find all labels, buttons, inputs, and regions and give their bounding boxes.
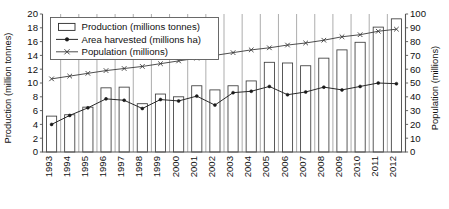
dual-axis-bar-line-chart: 02468101214161820 0102030405060708090100…	[0, 0, 449, 209]
area-harvested-marker	[395, 82, 398, 85]
production-bar	[119, 87, 129, 152]
y2-axis-title: Population (millions)	[429, 46, 440, 130]
production-bar	[355, 42, 365, 152]
y-axis-tick-label: 0	[33, 146, 38, 157]
area-harvested-marker	[340, 88, 343, 91]
area-harvested-marker	[141, 107, 144, 110]
legend-item-label: Area harvested (millions ha)	[82, 34, 201, 45]
y2-axis-tick-label: 90	[410, 22, 421, 33]
production-bar	[210, 90, 220, 152]
area-harvested-marker	[105, 97, 108, 100]
production-bar	[319, 58, 329, 152]
legend-dot-marker-icon	[65, 38, 69, 42]
y-axis-tick-label: 12	[27, 64, 38, 75]
legend-swatch-production-icon	[59, 23, 76, 30]
area-harvested-marker	[68, 114, 71, 117]
y2-axis-tick-label: 30	[410, 105, 421, 116]
y-axis-title: Production (million tonnes)	[2, 33, 13, 144]
x-axis-tick-label: 2008	[315, 156, 326, 177]
production-bar	[137, 104, 147, 152]
y-axis-tick-label: 4	[33, 119, 39, 130]
area-harvested-marker	[86, 106, 89, 109]
area-harvested-marker	[213, 104, 216, 107]
area-harvested-marker	[304, 90, 307, 93]
y2-axis-tick-label: 10	[410, 133, 421, 144]
x-axis-tick-label: 1998	[133, 156, 144, 177]
legend-item-label: Population (millions)	[82, 46, 168, 57]
y-axis-tick-label: 20	[27, 8, 38, 19]
area-harvested-marker	[159, 98, 162, 101]
production-bar	[174, 97, 184, 152]
y2-axis-tick-label: 80	[410, 36, 421, 47]
chart-figure: 02468101214161820 0102030405060708090100…	[0, 0, 449, 209]
x-axis-tick-label: 2009	[333, 156, 344, 177]
x-axis-tick-label: 2005	[260, 156, 271, 177]
x-axis-tick-label: 1994	[61, 155, 72, 177]
y2-axis-tick-label: 60	[410, 64, 421, 75]
production-bar	[155, 94, 165, 152]
y2-axis-tick-label: 50	[410, 77, 421, 88]
y2-axis-tick-label: 0	[410, 146, 415, 157]
x-axis-tick-label: 1999	[151, 156, 162, 177]
x-axis-tick-label: 2007	[297, 156, 308, 177]
production-bar	[46, 116, 56, 152]
chart-legend: Production (millions tonnes)Area harvest…	[51, 18, 219, 60]
y-axis-tick-label: 6	[33, 105, 38, 116]
production-bar	[65, 115, 75, 152]
x-axis-tick-label: 2012	[387, 156, 398, 177]
y-axis-tick-label: 2	[33, 133, 38, 144]
production-bar	[264, 62, 274, 152]
y-axis-tick-label: 8	[33, 91, 38, 102]
x-axis-tick-label: 2002	[206, 156, 217, 177]
production-bar	[301, 66, 311, 152]
area-harvested-marker	[123, 99, 126, 102]
area-harvested-marker	[359, 85, 362, 88]
x-axis-tick-label: 1993	[43, 156, 54, 177]
x-axis-tick-label: 2004	[242, 155, 253, 177]
x-axis-tick-label: 2011	[369, 156, 380, 177]
y2-axis-tick-label: 70	[410, 50, 421, 61]
y2-axis-tick-label: 20	[410, 119, 421, 130]
production-bar	[337, 50, 347, 152]
y-axis-tick-label: 16	[27, 36, 38, 47]
y2-axis-tick-label: 40	[410, 91, 421, 102]
x-axis-tick-label: 1995	[79, 156, 90, 177]
area-harvested-marker	[232, 91, 235, 94]
x-axis-tick-label: 2003	[224, 156, 235, 177]
area-harvested-marker	[268, 85, 271, 88]
area-harvested-marker	[177, 99, 180, 102]
x-axis-tick-label: 1996	[97, 156, 108, 177]
x-axis-tick-label: 1997	[115, 156, 126, 177]
production-bar	[83, 107, 93, 152]
y-axis-tick-label: 18	[27, 22, 38, 33]
x-axis-tick-label: 2006	[279, 156, 290, 177]
area-harvested-marker	[322, 86, 325, 89]
x-axis-tick-label: 2001	[188, 156, 199, 177]
area-harvested-marker	[250, 90, 253, 93]
area-harvested-marker	[50, 123, 53, 126]
y-axis-tick-label: 14	[27, 50, 38, 61]
y-axis-tick-label: 10	[27, 77, 38, 88]
production-bar	[282, 63, 292, 152]
production-bar	[373, 27, 383, 152]
x-axis-tick-label: 2010	[351, 156, 362, 177]
x-axis-tick-label: 2000	[170, 156, 181, 177]
y2-axis-tick-label: 100	[410, 8, 426, 19]
area-harvested-marker	[195, 95, 198, 98]
area-harvested-marker	[286, 93, 289, 96]
legend-item-label: Production (millions tonnes)	[82, 21, 200, 32]
area-harvested-marker	[377, 82, 380, 85]
